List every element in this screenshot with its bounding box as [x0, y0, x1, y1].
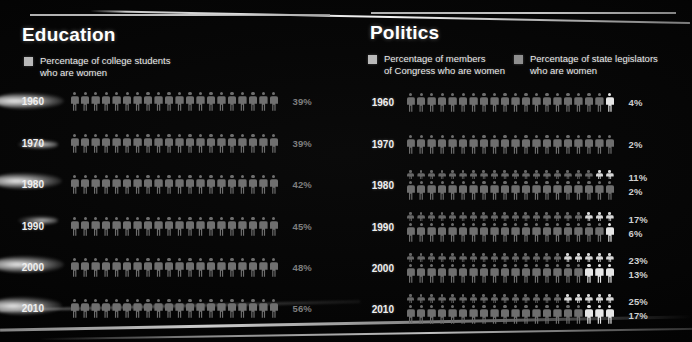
- politics-row: 201025%17%: [360, 294, 648, 324]
- person-icon: [427, 93, 436, 112]
- person-icon-highlighted: [248, 134, 257, 153]
- person-icon: [80, 175, 89, 194]
- person-icon: [584, 223, 593, 242]
- person-icon: [542, 253, 551, 262]
- person-icon: [164, 175, 173, 194]
- legend-swatch-state-legislators: [514, 55, 523, 64]
- pictogram-figures: [70, 175, 279, 194]
- politics-row-percents: 11%2%: [629, 171, 648, 199]
- person-icon: [143, 175, 152, 194]
- politics-row-stack: [406, 93, 615, 112]
- person-icon: [416, 305, 425, 324]
- person-icon-highlighted: [605, 294, 614, 303]
- person-icon: [532, 253, 541, 262]
- person-icon-highlighted: [269, 258, 278, 277]
- person-icon-highlighted: [563, 294, 572, 303]
- person-icon: [563, 264, 572, 283]
- person-icon: [416, 294, 425, 303]
- person-icon: [164, 134, 173, 153]
- politics-row: 19604%: [360, 93, 642, 112]
- person-icon: [427, 181, 436, 200]
- politics-legend-state-legislators: Percentage of state legislators who are …: [514, 53, 658, 76]
- state-legislators-percent-label: 17%: [629, 213, 648, 227]
- person-icon-highlighted: [196, 217, 205, 236]
- person-icon: [143, 299, 152, 318]
- person-icon: [448, 181, 457, 200]
- person-icon-highlighted: [605, 93, 614, 112]
- row-percent-label: 39%: [293, 138, 312, 149]
- row-year-label: 2010: [10, 303, 44, 314]
- person-icon: [427, 305, 436, 324]
- person-icon: [427, 223, 436, 242]
- person-icon: [437, 170, 446, 179]
- person-icon-highlighted: [248, 299, 257, 318]
- person-icon: [122, 299, 131, 318]
- person-icon: [448, 93, 457, 112]
- person-icon-highlighted: [206, 134, 215, 153]
- person-icon: [448, 212, 457, 221]
- education-row: 200048%: [10, 258, 312, 277]
- person-icon: [469, 170, 478, 179]
- person-icon-highlighted: [217, 134, 226, 153]
- person-icon-highlighted: [217, 217, 226, 236]
- person-icon: [164, 258, 173, 277]
- person-icon-highlighted: [595, 294, 604, 303]
- state-legislators-subrow: [406, 212, 615, 221]
- person-icon-highlighted: [269, 217, 278, 236]
- person-icon: [448, 305, 457, 324]
- person-icon: [91, 258, 100, 277]
- person-icon: [406, 212, 415, 221]
- person-icon: [553, 305, 562, 324]
- person-icon-highlighted: [206, 92, 215, 111]
- person-icon-highlighted: [605, 305, 614, 324]
- person-icon: [406, 294, 415, 303]
- person-icon: [532, 223, 541, 242]
- education-row: 196039%: [10, 92, 312, 111]
- person-icon: [574, 93, 583, 112]
- person-icon: [511, 170, 520, 179]
- person-icon: [542, 264, 551, 283]
- person-icon: [553, 135, 562, 154]
- person-icon: [91, 299, 100, 318]
- person-icon: [563, 181, 572, 200]
- pictogram-figures: [70, 299, 279, 318]
- person-icon: [448, 170, 457, 179]
- person-icon: [500, 305, 509, 324]
- pictogram-figures: [406, 253, 615, 262]
- person-icon-highlighted: [196, 299, 205, 318]
- row-percent-label: 42%: [293, 179, 312, 190]
- person-icon: [437, 181, 446, 200]
- legend-swatch-college-students: [24, 57, 33, 66]
- person-icon: [521, 264, 530, 283]
- person-icon-highlighted: [206, 258, 215, 277]
- pictogram-figures: [406, 305, 615, 324]
- person-icon: [437, 223, 446, 242]
- person-icon: [521, 223, 530, 242]
- person-icon: [437, 212, 446, 221]
- person-icon: [406, 264, 415, 283]
- person-icon: [490, 294, 499, 303]
- education-panel-title: Education: [22, 24, 116, 46]
- person-icon: [427, 170, 436, 179]
- person-icon: [490, 264, 499, 283]
- person-icon: [154, 134, 163, 153]
- person-icon: [532, 294, 541, 303]
- person-icon: [185, 175, 194, 194]
- person-icon-highlighted: [584, 305, 593, 324]
- person-icon-highlighted: [196, 134, 205, 153]
- person-icon-highlighted: [227, 258, 236, 277]
- person-icon: [469, 253, 478, 262]
- person-icon-highlighted: [605, 253, 614, 262]
- person-icon: [490, 305, 499, 324]
- politics-legend-congress-label: Percentage of members of Congress who ar…: [384, 53, 505, 76]
- politics-row: 19702%: [360, 135, 642, 154]
- person-icon-highlighted: [269, 134, 278, 153]
- person-icon-highlighted: [175, 299, 184, 318]
- person-icon: [416, 264, 425, 283]
- person-icon: [80, 134, 89, 153]
- person-icon: [437, 93, 446, 112]
- person-icon-highlighted: [248, 175, 257, 194]
- person-icon: [469, 135, 478, 154]
- person-icon: [458, 253, 467, 262]
- person-icon: [469, 264, 478, 283]
